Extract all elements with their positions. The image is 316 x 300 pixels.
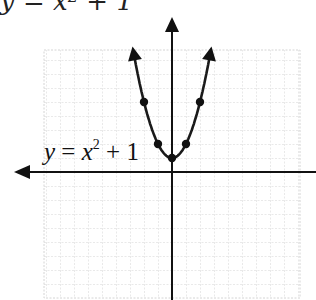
data-point xyxy=(168,154,176,162)
data-point xyxy=(196,98,204,106)
curve-equation-label: y = x2 + 1 xyxy=(44,138,139,166)
data-point xyxy=(182,140,190,148)
x-axis-left-arrow-icon xyxy=(14,165,30,179)
y-axis-up-arrow-icon xyxy=(165,17,179,32)
data-point xyxy=(154,140,162,148)
label-equals: = xyxy=(61,138,75,165)
label-constant: + 1 xyxy=(106,138,139,165)
label-x: x xyxy=(82,138,93,165)
data-point xyxy=(140,98,148,106)
label-y: y xyxy=(44,138,55,165)
label-exponent: 2 xyxy=(93,137,100,152)
